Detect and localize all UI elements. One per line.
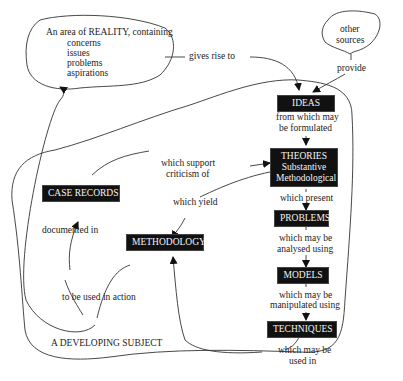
label-used-in-2: used in (289, 356, 316, 367)
label-from-which-1: from which may (276, 112, 339, 123)
label-manipulated-2: manipulated using (270, 300, 340, 311)
node-techniques: TECHNIQUES (267, 321, 337, 338)
node-models: MODELS (277, 267, 329, 284)
label-used-in-1: which may be (278, 345, 331, 356)
label-which-present: which present (280, 193, 333, 204)
label-criticism-of: criticism of (166, 169, 210, 180)
reality-item-aspirations: aspirations (67, 68, 108, 79)
sources-label-2: sources (336, 35, 365, 46)
node-ideas: IDEAS (277, 95, 335, 112)
node-case-records: CASE RECORDS (42, 185, 120, 202)
label-analysed-1: which may be (279, 233, 332, 244)
label-which-support: which support (161, 158, 215, 169)
label-provide: provide (337, 63, 366, 74)
label-to-be-used-in-action: to be used in action (62, 292, 136, 303)
label-which-yield: which yield (173, 197, 218, 208)
node-theories: THEORIES Substantive Methodological (270, 148, 338, 187)
node-methodology: METHODOLOGY (126, 234, 204, 251)
label-gives-rise-to: gives rise to (189, 51, 235, 62)
label-analysed-2: analysed using (277, 244, 333, 255)
label-documented-in: documented in (42, 225, 98, 236)
node-problems: PROBLEMS (274, 210, 329, 227)
region-label-developing-subject: A DEVELOPING SUBJECT (51, 338, 162, 349)
reality-heading: An area of REALITY, containing (46, 27, 173, 38)
label-from-which-2: be formulated (279, 123, 332, 134)
sources-label-1: other (340, 24, 360, 35)
